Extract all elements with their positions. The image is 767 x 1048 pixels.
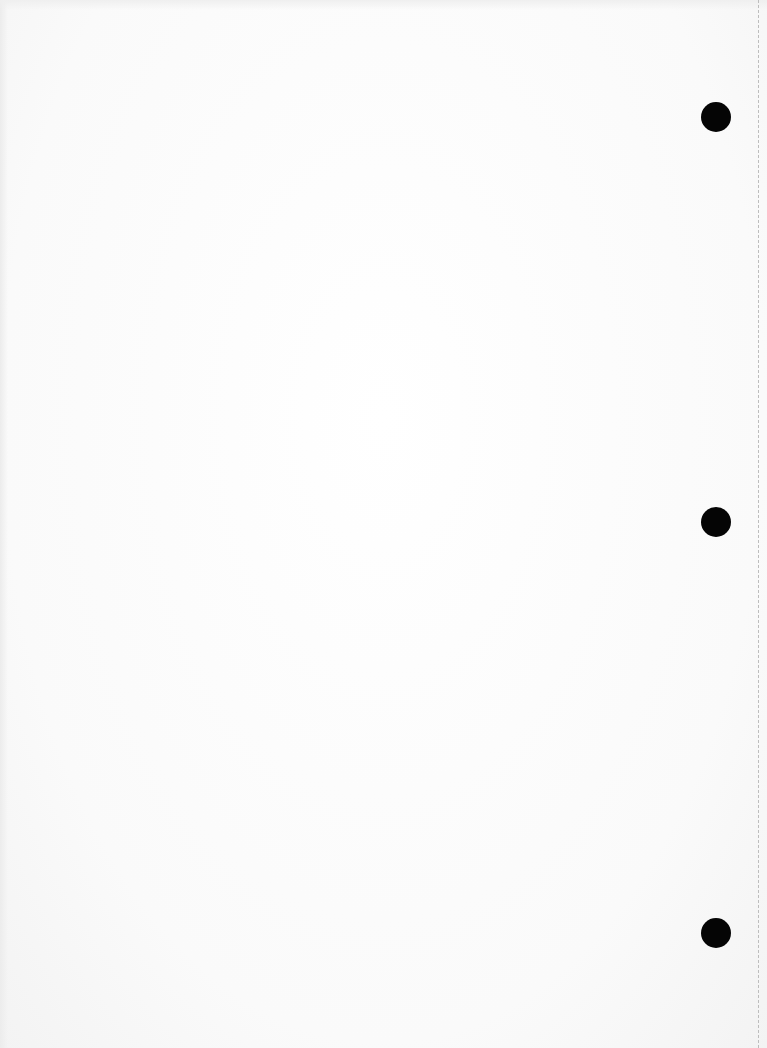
punch-hole-middle — [701, 507, 731, 537]
top-edge-shadow — [0, 0, 767, 10]
punch-hole-bottom — [701, 918, 731, 948]
left-edge-shadow — [0, 0, 8, 1048]
punch-hole-top — [701, 102, 731, 132]
blank-page — [0, 0, 767, 1048]
perforated-edge-line — [758, 0, 759, 1048]
